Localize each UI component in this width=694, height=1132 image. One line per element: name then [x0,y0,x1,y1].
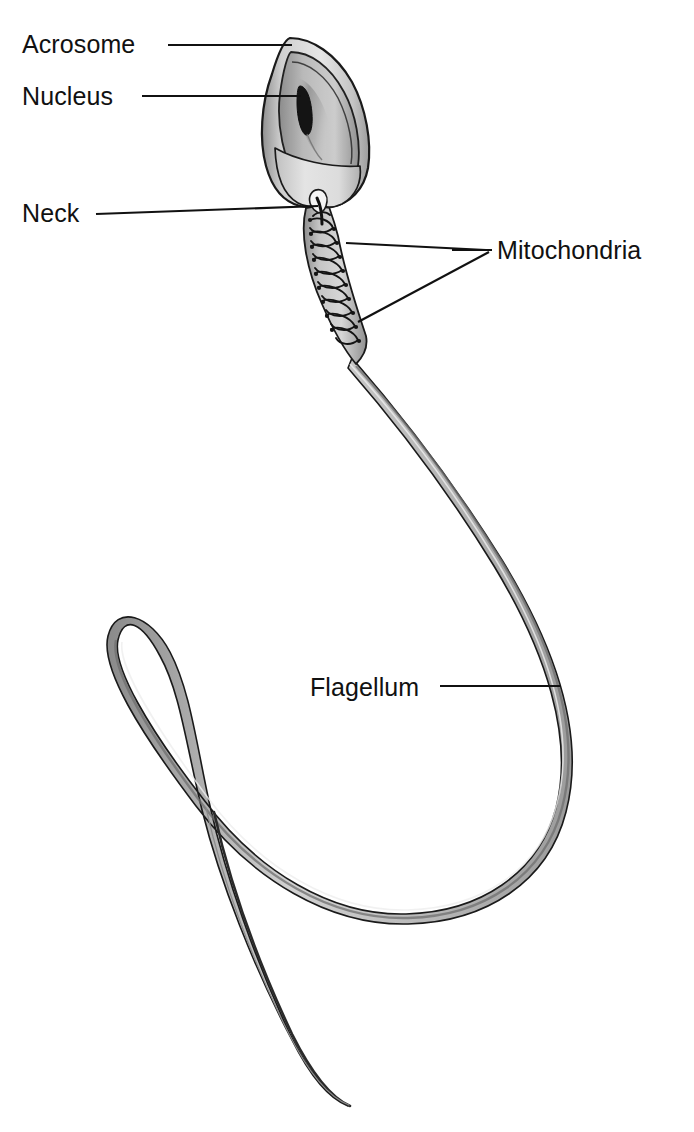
flagellum-shading [115,366,568,918]
label-nucleus: Nucleus [22,82,113,110]
label-neck: Neck [22,199,80,227]
label-mitochondria: Mitochondria [497,236,641,264]
leader-neck [96,206,318,214]
head-structure [262,38,369,224]
diagram-canvas: Acrosome Nucleus Neck Mitochondria Flage… [0,0,694,1132]
midpiece-structure [304,204,367,364]
label-acrosome: Acrosome [22,30,135,58]
flagellum-tip-inner [206,808,349,1105]
flagellum-structure [107,358,572,1106]
leader-mitochondria-branch-upper [346,243,486,250]
flagellum-tip [214,812,350,1106]
sperm-cell-diagram: Acrosome Nucleus Neck Mitochondria Flage… [0,0,694,1132]
flagellum-highlight [122,364,563,910]
leader-mitochondria-branch-lower [358,252,489,322]
label-flagellum: Flagellum [310,673,419,701]
flagellum-body [107,358,572,1106]
